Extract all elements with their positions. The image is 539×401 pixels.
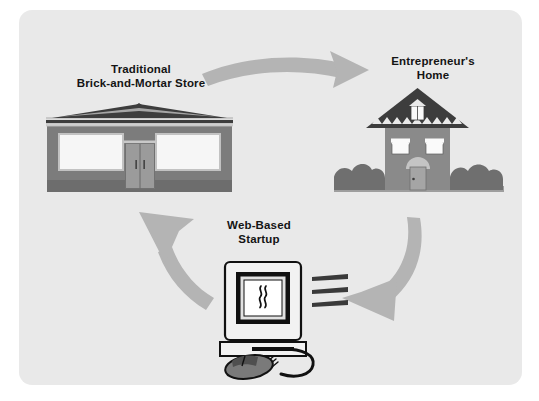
node-label-store-line2: Brick-and-Mortar Store — [60, 77, 222, 91]
arrow-store-to-home — [202, 51, 369, 88]
node-label-store-line1: Traditional — [60, 63, 222, 77]
entrepreneurs-home-icon — [334, 88, 504, 192]
speed-lines-icon — [312, 274, 348, 307]
node-label-store: Traditional Brick-and-Mortar Store — [60, 63, 222, 90]
node-label-startup-line1: Web-Based — [200, 219, 318, 233]
node-label-startup-line2: Startup — [200, 233, 318, 247]
brick-and-mortar-store-icon — [46, 103, 233, 192]
web-based-startup-computer-icon — [220, 262, 348, 382]
arrow-home-to-startup — [342, 217, 422, 321]
node-label-startup: Web-Based Startup — [200, 219, 318, 246]
node-label-home: Entrepreneur's Home — [372, 55, 494, 82]
figure-root: Traditional Brick-and-Mortar Store Entre… — [0, 0, 539, 401]
node-label-home-line2: Home — [372, 69, 494, 83]
node-label-home-line1: Entrepreneur's — [372, 55, 494, 69]
